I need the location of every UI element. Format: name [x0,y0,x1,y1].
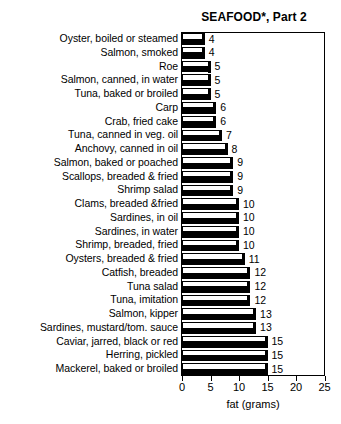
x-axis-tick-label: 5 [196,381,226,394]
bar [182,102,216,115]
bar-end-cap [202,47,205,59]
bar-value-label: 12 [254,280,266,293]
bar-value-label: 10 [243,198,255,211]
bar-end-cap [213,116,216,128]
bar-end-cap [247,267,250,279]
bar-end-cap [247,295,250,307]
bar-end-cap [230,171,233,183]
bar [182,281,250,294]
bar-end-cap [236,240,239,252]
bar-value-label: 13 [260,321,272,334]
x-axis-tick-label: 10 [224,381,254,394]
bar-shadow [182,315,256,321]
bar-end-cap [225,143,228,155]
bar [182,130,222,143]
bar-end-cap [213,102,216,114]
bar-value-label: 7 [226,129,232,142]
bar-value-label: 12 [254,294,266,307]
bar-end-cap [265,350,268,362]
chart-title: SEAFOOD*, Part 2 [182,10,326,24]
bar-shadow [182,122,216,128]
bar-shadow [182,67,211,73]
bar-end-cap [202,33,205,45]
bar-end-cap [253,308,256,320]
bar-end-cap [247,281,250,293]
bar-shadow [182,177,233,183]
bar-value-label: 15 [272,349,284,362]
bar-end-cap [236,226,239,238]
bar [182,363,268,376]
bar-shadow [182,260,245,266]
bar [182,33,205,46]
bar-shadow [182,136,222,142]
bar-shadow [182,149,228,155]
bar-value-label: 10 [243,211,255,224]
bar-value-label: 5 [215,88,221,101]
bar [182,116,216,129]
bar-shadow [182,342,268,348]
bar-end-cap [265,336,268,348]
bar-shadow [182,163,233,169]
bar-value-label: 9 [237,156,243,169]
seafood-fat-bar-chart: SEAFOOD*, Part 2 Oyster, boiled or steam… [0,0,341,424]
bar-value-label: 12 [254,266,266,279]
x-axis-tick-label: 25 [310,381,340,394]
bar-shadow [182,81,211,87]
bar-end-cap [208,88,211,100]
bar-shadow [182,273,250,279]
bar-end-cap [236,212,239,224]
bar-shadow [182,328,256,334]
bar-shadow [182,301,250,307]
bar [182,171,233,184]
bar-end-cap [236,198,239,210]
bar-shadow [182,94,211,100]
bar [182,350,268,363]
bar [182,61,211,74]
bar-shadow [182,287,250,293]
bar [182,47,205,60]
bar-shadow [182,218,239,224]
bar-end-cap [242,253,245,265]
bar-value-label: 15 [272,363,284,376]
bar [182,267,250,280]
bar [182,185,233,198]
bar [182,226,239,239]
bar-shadow [182,232,239,238]
bar-value-label: 10 [243,225,255,238]
bar-shadow [182,108,216,114]
bar-value-label: 13 [260,308,272,321]
bar-value-label: 5 [215,74,221,87]
bar [182,74,211,87]
bar [182,143,228,156]
bar-value-label: 6 [220,115,226,128]
x-axis-tick-label: 20 [281,381,311,394]
bar-end-cap [230,185,233,197]
bar-value-label: 11 [249,253,260,266]
bar-rows-container: Oyster, boiled or steamed4Salmon, smoked… [0,32,341,376]
bar-value-label: 9 [237,184,243,197]
bar-value-label: 4 [209,33,215,46]
bar-end-cap [208,74,211,86]
bar [182,240,239,253]
bar-end-cap [230,157,233,169]
bar-value-label: 8 [232,143,238,156]
bar [182,198,239,211]
bar-shadow [182,246,239,252]
bar [182,88,211,101]
bar [182,336,268,349]
bar-value-label: 4 [209,46,215,59]
bar-value-label: 10 [243,239,255,252]
bar [182,295,250,308]
bar [182,212,239,225]
bar [182,322,256,335]
bar-value-label: 9 [237,170,243,183]
bar [182,253,245,266]
bar-shadow [182,370,268,376]
bar-shadow [182,191,233,197]
x-axis-tick-label: 15 [253,381,283,394]
bar-value-label: 15 [272,335,284,348]
bar-end-cap [208,61,211,73]
bar-value-label: 5 [215,60,221,73]
x-axis-tick-label: 0 [167,381,197,394]
x-axis-label: fat (grams) [181,398,325,410]
